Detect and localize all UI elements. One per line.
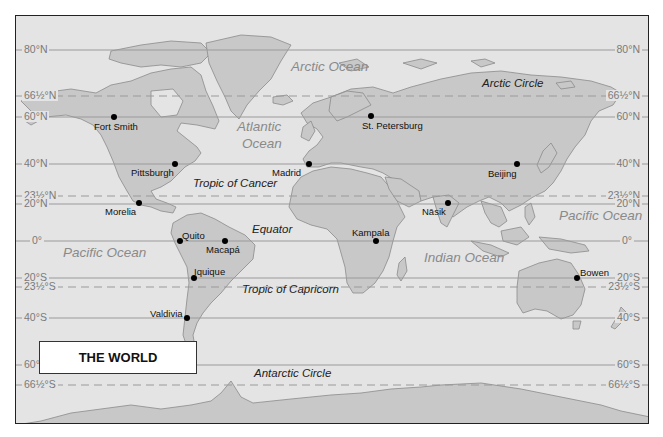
city-label-morelia: Morelia	[105, 206, 136, 217]
city-label-st-petersburg: St. Petersburg	[362, 120, 423, 131]
lat-label-40s: 40°S	[22, 312, 49, 323]
city-label-fort-smith: Fort Smith	[94, 121, 138, 132]
lat-label-66-5n: 66½°N	[22, 90, 58, 101]
lat-label-23-5s-right: 23½°S	[606, 281, 642, 292]
lat-label-0: 0°	[30, 235, 44, 246]
lat-label-20n: 20°N	[22, 198, 49, 209]
city-label-bowen: Bowen	[580, 267, 609, 278]
lat-label-0-right: 0°	[620, 235, 634, 246]
lat-label-60s-right: 60°S	[615, 359, 642, 370]
ocean-label-pacific-east: Pacific Ocean	[559, 208, 642, 223]
ocean-label-arctic: Arctic Ocean	[291, 59, 368, 74]
city-label-nasik: Nāsik	[422, 206, 446, 217]
lat-label-66-5n-right: 66½°N	[606, 90, 642, 101]
arctic-circle-label: Arctic Circle	[482, 77, 543, 90]
lat-label-23-5s: 23½°S	[22, 281, 58, 292]
ocean-label-pacific-west: Pacific Ocean	[63, 245, 146, 260]
lat-label-80n: 80°N	[22, 44, 49, 55]
lat-label-80n-right: 80°N	[615, 44, 642, 55]
lat-label-66-5s-right: 66½°S	[606, 379, 642, 390]
city-label-iquique: Iquique	[194, 266, 225, 277]
equator-label: Equator	[252, 223, 292, 236]
world-map: 80°N 66½°N 60°N 40°N 23½°N 20°N 0° 20°S …	[15, 15, 649, 424]
city-marker-valdivia[interactable]	[184, 315, 190, 321]
lat-label-40n-right: 40°N	[615, 158, 642, 169]
greenland	[206, 35, 291, 119]
ocean-label-atlantic-2: Ocean	[242, 136, 282, 151]
tropic-of-capricorn-label: Tropic of Capricorn	[242, 283, 339, 296]
lat-label-40n: 40°N	[22, 158, 49, 169]
lat-label-66-5s: 66½°S	[22, 379, 58, 390]
city-label-valdivia: Valdivia	[150, 308, 183, 319]
map-title-box: THE WORLD	[39, 341, 197, 374]
lat-label-60n: 60°N	[22, 111, 49, 122]
city-label-macapa: Macapá	[206, 244, 240, 255]
antarctica	[16, 381, 649, 424]
ocean-label-indian: Indian Ocean	[424, 250, 504, 265]
city-marker-morelia[interactable]	[136, 200, 142, 206]
lat-label-40s-right: 40°S	[615, 312, 642, 323]
city-marker-kampala[interactable]	[373, 238, 379, 244]
tropic-of-cancer-label: Tropic of Cancer	[193, 177, 277, 190]
australia	[517, 259, 585, 319]
lat-label-60n-right: 60°N	[615, 111, 642, 122]
antarctic-circle-label: Antarctic Circle	[254, 367, 331, 380]
city-marker-beijing[interactable]	[514, 161, 520, 167]
city-marker-st-petersburg[interactable]	[368, 113, 374, 119]
city-label-pittsburgh: Pittsburgh	[131, 167, 174, 178]
city-marker-fort-smith[interactable]	[111, 114, 117, 120]
ocean-label-atlantic-1: Atlantic	[237, 119, 281, 134]
city-marker-madrid[interactable]	[306, 161, 312, 167]
city-label-kampala: Kampala	[352, 227, 390, 238]
city-label-beijing: Beijing	[488, 168, 517, 179]
city-label-quito: Quito	[182, 230, 205, 241]
city-label-madrid: Madrid	[272, 167, 301, 178]
map-title: THE WORLD	[79, 350, 158, 365]
